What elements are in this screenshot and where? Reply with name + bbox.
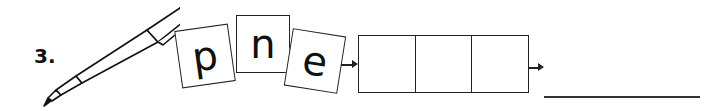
letter-tile[interactable]: p (174, 24, 236, 89)
arrow-icon (529, 67, 539, 69)
answer-box[interactable] (472, 36, 528, 92)
answer-box[interactable] (359, 36, 416, 92)
letter-tile[interactable]: e (284, 28, 346, 94)
answer-box[interactable] (416, 36, 473, 92)
arrow-icon (341, 64, 353, 66)
answer-boxes (358, 35, 529, 93)
answer-line[interactable] (544, 96, 700, 98)
pen-icon (30, 0, 180, 111)
letter-tile[interactable]: n (236, 15, 290, 73)
